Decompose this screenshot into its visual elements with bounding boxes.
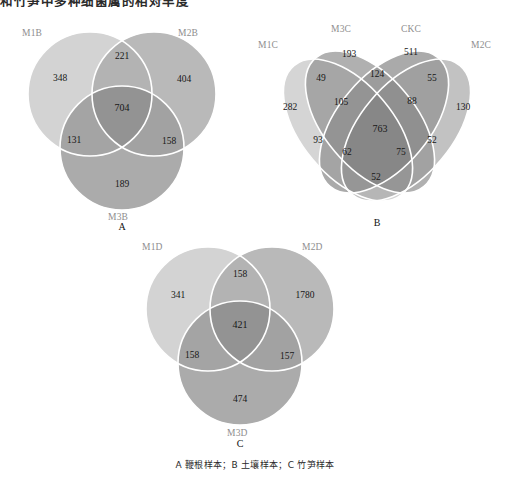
venn-b-value-m3c: 193 [342, 49, 356, 59]
venn-a-value-m2b-m3b: 158 [162, 136, 176, 146]
venn-c-panel-letter: C [237, 438, 244, 449]
venn-c-value-m2d-m3d: 157 [280, 351, 294, 361]
venn-b-label-m3c: M3C [331, 24, 351, 34]
venn-b-value-m1c-m3c-ckc: 105 [334, 97, 348, 107]
venn-a-panel-letter: A [118, 221, 125, 232]
venn-c-label-m2d: M2D [302, 242, 323, 252]
venn-c-value-m1d: 341 [171, 290, 185, 300]
venn-b-value-ckc: 511 [404, 47, 418, 57]
venn-c-label-m3d: M3D [227, 428, 248, 438]
venn-b-value-m1c-m3c-m2c: 62 [342, 147, 352, 157]
venn-c-value-m3d: 474 [233, 394, 247, 404]
venn-a-label-m2b: M2B [178, 28, 198, 38]
venn-c-label-m1d: M1D [142, 242, 163, 252]
venn-a-value-m1b: 348 [53, 73, 67, 83]
venn-a-value-m1b-m2b: 221 [115, 51, 129, 61]
clipped-heading: 和竹笋中多种细菌属的相对丰度 [0, 0, 190, 7]
venn-b-value-m3c-m2c: 75 [396, 147, 406, 157]
venn-a-value-m2b: 404 [177, 74, 191, 84]
venn-b-value-all: 763 [373, 123, 388, 134]
venn-b-label-m2c: M2C [471, 40, 491, 50]
venn-c-value-m1d-m3d: 158 [185, 350, 199, 360]
venn-panel-a: M1B M2B M3B 348 404 189 221 131 158 704 … [8, 22, 233, 232]
venn-b-value-ckc-m2c: 55 [427, 73, 437, 83]
figure-root: 和竹笋中多种细菌属的相对丰度 [0, 0, 510, 483]
venn-a-value-triple: 704 [115, 102, 130, 113]
venn-panel-c: M1D M2D M3D 341 1780 474 158 158 157 421… [120, 238, 365, 456]
venn-b-value-m1c: 282 [283, 102, 297, 112]
venn-c-value-m1d-m2d: 158 [233, 269, 247, 279]
venn-a-label-m1b: M1B [22, 28, 42, 38]
venn-b-label-ckc: CKC [401, 24, 421, 34]
venn-a-value-m1b-m3b: 131 [67, 135, 81, 145]
venn-b-value-m3c-ckc: 124 [370, 69, 384, 79]
venn-b-value-m3c-ckc-m2c: 88 [407, 96, 417, 106]
venn-b-value-ckc-m2c-lower: 52 [427, 135, 437, 145]
venn-b-value-m1c-m2c: 52 [371, 172, 381, 182]
venn-b-value-m2c: 130 [456, 102, 470, 112]
venn-b-value-m1c-ckc: 93 [313, 135, 323, 145]
venn-b-label-m1c: M1C [258, 40, 278, 50]
venn-a-value-m3b: 189 [115, 179, 129, 189]
venn-c-value-m2d: 1780 [296, 290, 315, 300]
figure-caption: A 鞭根样本；B 土壤样本；C 竹笋样本 [0, 458, 510, 471]
venn-c-value-triple: 421 [233, 319, 248, 330]
venn-b-panel-letter: B [374, 217, 381, 228]
venn-b-value-m1c-m3c: 49 [316, 73, 326, 83]
venn-panel-b: M1C M3C CKC M2C 282 193 511 130 49 124 5… [248, 22, 506, 232]
